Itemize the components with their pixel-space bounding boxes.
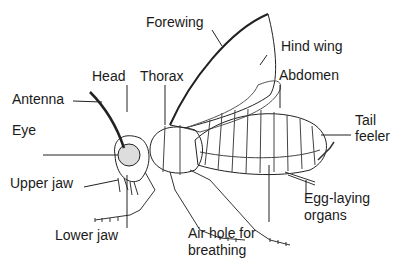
thorax-shape <box>150 127 203 173</box>
forewing-label: Forewing <box>146 15 204 30</box>
insect-illustration <box>0 0 408 263</box>
lower-jaw-label: Lower jaw <box>55 228 118 243</box>
antenna-label: Antenna <box>12 92 64 107</box>
egg-laying-label-line1: Egg-laying <box>304 191 370 206</box>
head-label: Head <box>92 69 125 84</box>
abdomen-label: Abdomen <box>279 68 339 83</box>
tail-feeler-label-line1: Tail <box>355 113 376 128</box>
eye-shape <box>118 144 140 166</box>
thorax-label: Thorax <box>140 69 184 84</box>
hind-wing-label: Hind wing <box>281 39 342 54</box>
air-hole-label-line2: breathing <box>188 243 246 258</box>
egg-laying-shape <box>285 172 315 185</box>
upper-jaw-label: Upper jaw <box>10 176 73 191</box>
eye-label: Eye <box>12 123 36 138</box>
tail-feeler-label-line2: feeler <box>355 129 390 144</box>
air-hole-label-line1: Air hole for <box>188 226 256 241</box>
insect-diagram: Forewing Hind wing Head Thorax Abdomen A… <box>0 0 408 263</box>
forewing-shape <box>170 14 276 128</box>
egg-laying-label-line2: organs <box>304 208 347 223</box>
